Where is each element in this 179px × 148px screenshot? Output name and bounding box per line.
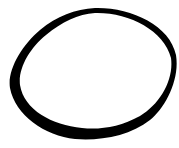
- brush-ring-icon: [0, 0, 179, 148]
- brush-ring-stroke: [10, 8, 177, 139]
- canvas: [0, 0, 179, 148]
